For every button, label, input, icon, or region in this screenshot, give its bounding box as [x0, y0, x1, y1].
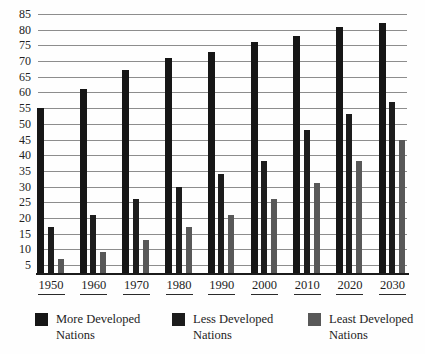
y-axis-label-30: 30 — [0, 180, 31, 194]
legend-swatch-least-icon — [308, 313, 321, 326]
bar-less-2020 — [346, 114, 352, 273]
x-axis-label-2010: 2010 — [294, 278, 321, 295]
legend-label-more: More Developed Nations — [56, 311, 140, 343]
legend-label-least-line1: Least Developed — [329, 312, 413, 326]
x-axis-tick-1960: 1960 — [70, 278, 118, 295]
legend-swatch-less-icon — [172, 313, 185, 326]
bar-least-2030 — [399, 140, 405, 274]
y-axis-label-60: 60 — [0, 85, 31, 99]
y-axis-label-85: 85 — [0, 7, 31, 21]
y-axis-label-65: 65 — [0, 70, 31, 84]
y-axis-label-20: 20 — [0, 211, 31, 225]
x-axis-tick-2010: 2010 — [283, 278, 331, 295]
y-axis-label-25: 25 — [0, 195, 31, 209]
x-axis-label-1950: 1950 — [38, 278, 65, 295]
bar-less-1980 — [176, 187, 182, 273]
gridline-85 — [38, 14, 407, 15]
plot-area: 5101520253035404550556065707580851950196… — [0, 0, 425, 300]
y-axis-label-80: 80 — [0, 23, 31, 37]
x-axis-tick-1990: 1990 — [198, 278, 246, 295]
bar-more-2030 — [379, 23, 386, 273]
legend-label-less-line2: Nations — [193, 328, 232, 342]
bar-least-2010 — [314, 183, 320, 273]
legend-item-least: Least Developed Nations — [308, 311, 413, 343]
gridline-75 — [38, 45, 407, 46]
y-axis-label-70: 70 — [0, 54, 31, 68]
legend-label-least: Least Developed Nations — [329, 311, 413, 343]
x-axis-tick-2030: 2030 — [369, 278, 417, 295]
bar-less-1960 — [90, 215, 96, 273]
y-axis-label-75: 75 — [0, 38, 31, 52]
x-axis-tick-1950: 1950 — [27, 278, 75, 295]
y-axis-label-15: 15 — [0, 227, 31, 241]
bar-more-1990 — [208, 52, 215, 273]
x-axis-line — [36, 273, 409, 275]
gridline-60 — [38, 92, 407, 93]
gridline-65 — [38, 77, 407, 78]
bar-least-1990 — [228, 215, 234, 273]
bar-more-2010 — [293, 36, 300, 273]
legend-swatch-more-icon — [35, 313, 48, 326]
x-axis-tick-2000: 2000 — [241, 278, 289, 295]
bar-least-1980 — [186, 227, 192, 273]
bar-least-2000 — [271, 199, 277, 273]
bar-least-1960 — [100, 252, 106, 273]
legend-item-more: More Developed Nations — [35, 311, 140, 343]
bar-least-1950 — [58, 259, 64, 273]
x-axis-tick-1970: 1970 — [112, 278, 160, 295]
y-axis-label-45: 45 — [0, 133, 31, 147]
gridline-80 — [38, 30, 407, 31]
bar-more-1970 — [122, 70, 129, 273]
y-axis-label-40: 40 — [0, 148, 31, 162]
y-axis-label-35: 35 — [0, 164, 31, 178]
bar-least-2020 — [356, 161, 362, 273]
bar-less-2030 — [389, 102, 395, 273]
x-axis-label-2000: 2000 — [251, 278, 278, 295]
bar-less-1990 — [218, 174, 224, 273]
legend-label-more-line1: More Developed — [56, 312, 140, 326]
x-axis-label-2030: 2030 — [379, 278, 406, 295]
y-axis-label-55: 55 — [0, 101, 31, 115]
x-axis-label-1990: 1990 — [208, 278, 235, 295]
x-axis-tick-1980: 1980 — [155, 278, 203, 295]
bar-more-2000 — [251, 42, 258, 273]
y-axis-label-50: 50 — [0, 117, 31, 131]
legend-item-less: Less Developed Nations — [172, 311, 273, 343]
bar-more-1980 — [165, 58, 172, 273]
y-axis-label-10: 10 — [0, 242, 31, 256]
bar-less-1950 — [48, 227, 54, 273]
y-axis-label-5: 5 — [0, 258, 31, 272]
bar-more-2020 — [336, 27, 343, 273]
x-axis-label-1960: 1960 — [80, 278, 107, 295]
bar-least-1970 — [143, 240, 149, 273]
legend-label-less: Less Developed Nations — [193, 311, 273, 343]
x-axis-label-1980: 1980 — [166, 278, 193, 295]
x-axis-label-2020: 2020 — [336, 278, 363, 295]
bar-less-2010 — [304, 130, 310, 273]
x-axis-tick-2020: 2020 — [326, 278, 374, 295]
chart-legend: More Developed Nations Less Developed Na… — [0, 311, 425, 354]
gridline-70 — [38, 61, 407, 62]
legend-label-less-line1: Less Developed — [193, 312, 273, 326]
bar-more-1960 — [80, 89, 87, 273]
bar-less-2000 — [261, 161, 267, 273]
x-axis-label-1970: 1970 — [123, 278, 150, 295]
bar-less-1970 — [133, 199, 139, 273]
legend-label-more-line2: Nations — [56, 328, 95, 342]
chart-canvas: 5101520253035404550556065707580851950196… — [0, 0, 425, 354]
bar-more-1950 — [37, 108, 44, 273]
gridline-55 — [38, 108, 407, 109]
legend-label-least-line2: Nations — [329, 328, 368, 342]
